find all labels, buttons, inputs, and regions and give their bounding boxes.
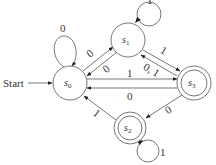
- fsm-diagram: Start 0 0 0 1 1 0, 1 1 0: [0, 0, 216, 165]
- edge-s0-s3: 1: [87, 67, 177, 79]
- edge-s1-s1: 1: [135, 0, 161, 26]
- svg-text:1: 1: [160, 146, 166, 158]
- edge-s3-s2: 0: [146, 95, 182, 118]
- svg-text:1: 1: [91, 106, 103, 119]
- edge-s0-s0: 0: [54, 22, 76, 67]
- state-s3-accepting: s3: [177, 66, 211, 100]
- state-s0: s0: [53, 66, 87, 100]
- start-arrow: Start: [3, 77, 52, 89]
- svg-text:1: 1: [127, 67, 133, 79]
- svg-text:0: 0: [84, 46, 96, 59]
- svg-text:1: 1: [158, 44, 169, 57]
- state-s2-accepting: s2: [114, 112, 146, 144]
- svg-text:0: 0: [60, 22, 66, 34]
- svg-text:0, 1: 0, 1: [141, 60, 161, 79]
- state-s1: s1: [111, 23, 145, 57]
- edge-s3-s0: 0: [87, 88, 177, 102]
- start-label: Start: [3, 77, 24, 89]
- svg-text:1: 1: [147, 0, 153, 6]
- edge-s2-s0: 1: [84, 96, 116, 120]
- edge-s3-s1: 0, 1: [141, 55, 177, 79]
- edge-s2-s2: 1: [137, 140, 166, 162]
- svg-text:0: 0: [100, 62, 112, 75]
- svg-text:0: 0: [127, 90, 133, 102]
- svg-text:0: 0: [163, 103, 175, 116]
